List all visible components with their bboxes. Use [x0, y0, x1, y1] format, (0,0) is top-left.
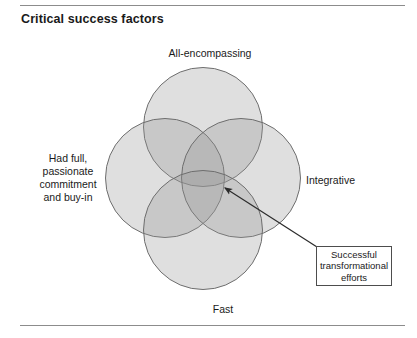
critical-success-factors-figure: Critical success factors All-encompassin…: [0, 0, 417, 338]
venn-label-commitment-line-4: and buy-in: [22, 191, 114, 204]
venn-label-integrative: Integrative: [306, 174, 402, 187]
venn-label-commitment-line-1: Had full,: [22, 152, 114, 165]
callout-line-1: Successful: [320, 249, 388, 261]
bottom-divider: [20, 325, 405, 326]
callout-line-2: transformational: [320, 260, 388, 272]
venn-label-all-encompassing: All-encompassing: [140, 47, 280, 60]
callout-text: Successful transformational efforts: [318, 249, 390, 284]
venn-label-commitment-line-3: commitment: [22, 178, 114, 191]
callout-line-3: efforts: [320, 272, 388, 284]
callout-box: Successful transformational efforts: [316, 246, 392, 286]
venn-label-fast: Fast: [168, 303, 278, 316]
venn-label-commitment-line-2: passionate: [22, 165, 114, 178]
venn-diagram: All-encompassing Had full, passionate co…: [0, 0, 417, 338]
venn-label-commitment: Had full, passionate commitment and buy-…: [22, 152, 114, 204]
venn-circle-fast: [143, 170, 263, 290]
